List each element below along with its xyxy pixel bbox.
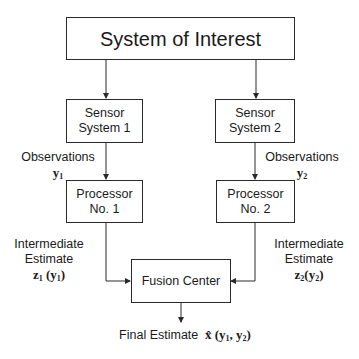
system-of-interest-box: System of Interest [66, 17, 295, 60]
processor2-line2: No. 2 [241, 202, 271, 217]
fusion-center-box: Fusion Center [131, 259, 231, 303]
final-estimate-label: Final Estimate x̂ (y1, y2) [110, 327, 260, 346]
inter1-formula: z1 (y1) [8, 267, 90, 286]
obs2-text: Observations [262, 150, 342, 165]
observations-1-label: Observations y1 [18, 150, 98, 184]
final-formula: x̂ (y1, y2) [202, 327, 251, 342]
processor2-line1: Processor [227, 187, 283, 202]
sensor2-line2: System 2 [229, 121, 281, 136]
fusion-center-label: Fusion Center [142, 274, 221, 289]
intermediate-estimate-1-label: Intermediate Estimate z1 (y1) [8, 237, 90, 286]
processor1-line1: Processor [76, 187, 132, 202]
processor1-line2: No. 1 [90, 202, 120, 217]
inter2-formula: z2(y2) [268, 267, 350, 286]
processor-1-box: Processor No. 1 [66, 180, 143, 223]
inter2-line1: Intermediate [268, 237, 350, 252]
obs2-var: y2 [262, 165, 342, 184]
inter1-line2: Estimate [8, 252, 90, 267]
inter1-line1: Intermediate [8, 237, 90, 252]
final-text: Final Estimate [119, 328, 198, 342]
sensor1-line1: Sensor [85, 106, 125, 121]
arrow-processor2-to-fusion [231, 222, 255, 281]
sensor-system-1-box: Sensor System 1 [66, 99, 143, 143]
observations-2-label: Observations y2 [262, 150, 342, 184]
sensor1-line2: System 1 [78, 121, 130, 136]
arrow-processor1-to-fusion [106, 222, 130, 281]
processor-2-box: Processor No. 2 [216, 180, 295, 223]
obs1-var: y1 [18, 165, 98, 184]
system-of-interest-label: System of Interest [100, 28, 261, 50]
sensor2-line1: Sensor [235, 106, 275, 121]
obs1-text: Observations [18, 150, 98, 165]
intermediate-estimate-2-label: Intermediate Estimate z2(y2) [268, 237, 350, 286]
inter2-line2: Estimate [268, 252, 350, 267]
sensor-system-2-box: Sensor System 2 [215, 99, 295, 143]
